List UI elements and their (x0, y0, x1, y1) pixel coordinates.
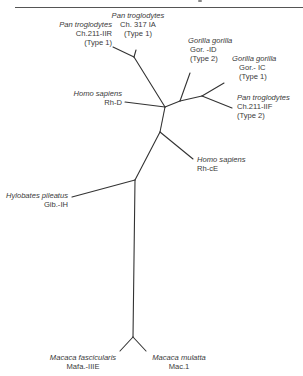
accession: Rh-D (62, 98, 122, 107)
branch-gor-id (180, 73, 190, 101)
accession: Gib.-IH (2, 200, 68, 209)
species-name: Homo sapiens (62, 89, 122, 98)
leaf-label-hylobates: Hylobates pileatus Gib.-IH (2, 191, 68, 209)
leaf-label-pan-iif: Pan troglodytes Ch.211-IIF (Type 2) (237, 93, 303, 120)
species-name: Pan troglodytes (237, 93, 303, 102)
species-name: Pan troglodytes (108, 11, 168, 20)
accession: Gor.- IC (232, 63, 302, 72)
type: (Type 2) (237, 111, 303, 120)
species-name: Macaca fascicularis (44, 353, 122, 362)
branch-trunk-3 (133, 180, 135, 337)
type: (Type 1) (108, 29, 168, 38)
species-name: Macaca mulatta (148, 353, 210, 362)
leaf-label-homo-rhce: Homo sapiens Rh-cE (197, 155, 257, 173)
leaf-label-pan-iir: Pan troglodytes Ch.211-IIR (Type 1) (52, 20, 112, 47)
branch-pan-317 (134, 50, 136, 57)
accession: Ch.211-IIR (52, 29, 112, 38)
branch-mac (133, 337, 146, 351)
branch-inner (180, 96, 202, 101)
leaf-label-gor-ic: Gorilla gorilla Gor.- IC (Type 1) (232, 54, 302, 81)
accession: Rh-cE (197, 164, 257, 173)
leaf-label-pan-317: Pan troglodytes Ch. 317 IA (Type 1) (108, 11, 168, 38)
accession: Gor. -ID (188, 45, 248, 54)
species-name: Gorilla gorilla (232, 54, 302, 63)
accession: Ch.211-IIF (237, 102, 303, 111)
species-name: Pan troglodytes (52, 20, 112, 29)
type: (Type 1) (232, 72, 302, 81)
species-name: Homo sapiens (197, 155, 257, 164)
species-name: Gorilla gorilla (188, 36, 248, 45)
leaf-label-mafa: Macaca fascicularis Mafa.-IIIE (44, 353, 122, 371)
branch-gor-ic (202, 83, 224, 96)
branch-pan-iir (113, 47, 134, 57)
branch-trunk-1 (160, 107, 165, 132)
type: (Type 1) (52, 38, 112, 47)
accession: Ch. 317 IA (108, 20, 168, 29)
branch-homo-rhd (125, 102, 165, 107)
branch-mafa (120, 337, 133, 351)
accession: Mac.1 (148, 362, 210, 371)
branch-homo-rhce (160, 132, 193, 159)
leaf-label-homo-rhd: Homo sapiens Rh-D (62, 89, 122, 107)
branch-trunk-2 (135, 132, 160, 180)
branch-pan-clade (134, 57, 165, 107)
branch-hylobates (72, 180, 135, 197)
branch-pan-iif (202, 96, 232, 108)
branch-gor-clade (165, 101, 180, 107)
accession: Mafa.-IIIE (44, 362, 122, 371)
leaf-label-mac: Macaca mulatta Mac.1 (148, 353, 210, 371)
species-name: Hylobates pileatus (2, 191, 68, 200)
